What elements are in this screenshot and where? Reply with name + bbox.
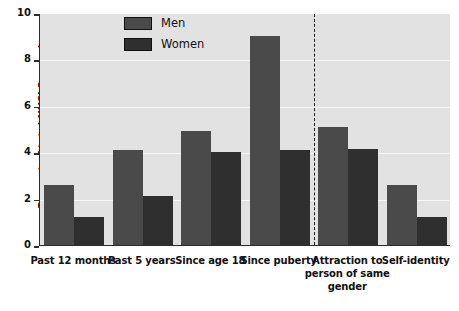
- y-tick-label: 0: [24, 239, 31, 250]
- legend-swatch-women-icon: [124, 38, 152, 51]
- bar-men: [181, 131, 211, 245]
- y-axis-tick: 4: [0, 153, 39, 154]
- chart-figure: Percent of total NHSLS sample 0246810 Me…: [0, 0, 459, 311]
- plot-area: [39, 14, 450, 246]
- bar-women: [74, 217, 104, 245]
- bar-women: [143, 196, 173, 245]
- legend-label-men: Men: [161, 16, 185, 30]
- y-axis-tick: 6: [0, 107, 39, 108]
- gridline: [40, 107, 450, 108]
- y-axis-tick: 8: [0, 60, 39, 61]
- gridline: [40, 153, 450, 154]
- y-axis-tick: 2: [0, 200, 39, 201]
- y-axis-tick: 10: [0, 14, 39, 15]
- y-tick-label: 6: [24, 100, 31, 111]
- y-tick-label: 4: [24, 146, 31, 157]
- y-axis-tick: 0: [0, 246, 39, 247]
- group-divider-line: [314, 14, 315, 245]
- bar-men: [250, 36, 280, 245]
- y-tick-label: 2: [24, 193, 31, 204]
- bar-women: [348, 149, 378, 245]
- y-tick-mark: [34, 246, 39, 248]
- y-tick-label: 10: [17, 7, 31, 18]
- bar-women: [211, 152, 241, 245]
- bar-men: [318, 127, 348, 245]
- legend-label-women: Women: [161, 37, 204, 51]
- chart-legend: Men Women: [124, 16, 204, 58]
- bar-men: [387, 185, 417, 245]
- gridline: [40, 60, 450, 61]
- x-axis-label: Self-identity: [373, 254, 459, 267]
- bar-men: [44, 185, 74, 245]
- bar-men: [113, 150, 143, 245]
- bar-women: [417, 217, 447, 245]
- legend-item-women: Women: [124, 37, 204, 51]
- legend-swatch-men-icon: [124, 17, 152, 30]
- legend-item-men: Men: [124, 16, 204, 30]
- y-tick-label: 8: [24, 53, 31, 64]
- bar-women: [280, 150, 310, 245]
